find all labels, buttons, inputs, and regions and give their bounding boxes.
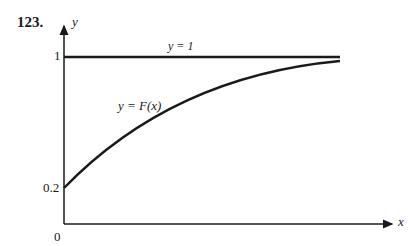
y-axis-label: y [72,14,78,30]
curve-label: y = F(x) [118,98,161,114]
x-axis-label: x [398,214,404,230]
chart-plot [0,0,412,246]
asymptote-label: y = 1 [168,39,193,54]
origin-label: 0 [54,229,61,245]
curve-F [64,61,340,188]
tick-label-1: 1 [54,48,61,64]
tick-label-0-2: 0.2 [43,180,59,196]
